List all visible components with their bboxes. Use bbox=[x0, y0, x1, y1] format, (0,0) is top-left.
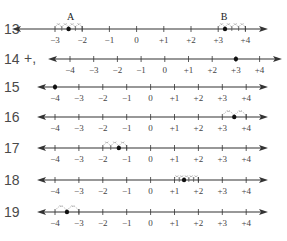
tick-label: +1 bbox=[170, 218, 180, 228]
number-line-worksheet: 13−3−2−10+1+2+3+4AB14+,−4−3−2−10+1+2+3+4… bbox=[0, 0, 287, 241]
point-dot bbox=[66, 27, 70, 31]
number-line-problem-18: 18−4−3−2−10+1+2+3+4 bbox=[4, 172, 268, 196]
tick-label: −2 bbox=[113, 65, 123, 75]
tick-label: −1 bbox=[105, 35, 115, 45]
tick-label: 0 bbox=[148, 154, 153, 164]
point-dot bbox=[53, 85, 57, 89]
tick-label: −3 bbox=[74, 154, 84, 164]
point-label-b: B bbox=[221, 11, 228, 22]
point-dot bbox=[117, 146, 121, 150]
tick-label: 0 bbox=[148, 218, 153, 228]
tick-label: 0 bbox=[148, 186, 153, 196]
number-line-problem-14: 14+,−4−3−2−10+1+2+3+4 bbox=[4, 50, 282, 75]
problem-prefix: +, bbox=[24, 50, 36, 66]
tick-label: +3 bbox=[218, 186, 228, 196]
tick-label: +1 bbox=[184, 65, 194, 75]
tick-label: +2 bbox=[207, 65, 217, 75]
tick-label: −1 bbox=[136, 65, 146, 75]
tick-label: −4 bbox=[50, 123, 60, 133]
tick-label: −3 bbox=[50, 35, 60, 45]
tick-label: −3 bbox=[74, 186, 84, 196]
tick-label: +4 bbox=[241, 93, 251, 103]
tick-label: +4 bbox=[241, 35, 251, 45]
tick-label: +2 bbox=[194, 123, 204, 133]
tick-label: −4 bbox=[65, 65, 75, 75]
tick-label: −1 bbox=[122, 218, 132, 228]
problem-number: 17 bbox=[4, 140, 20, 156]
point-dot bbox=[232, 115, 236, 119]
point-dot bbox=[234, 57, 238, 61]
tick-label: 0 bbox=[148, 123, 153, 133]
tick-label: 0 bbox=[134, 35, 139, 45]
tick-label: −1 bbox=[122, 154, 132, 164]
tick-label: +2 bbox=[194, 93, 204, 103]
tick-label: −1 bbox=[122, 186, 132, 196]
tick-label: +4 bbox=[241, 154, 251, 164]
number-line-problem-15: 15−4−3−2−10+1+2+3+4 bbox=[4, 79, 268, 103]
tick-label: −2 bbox=[77, 35, 87, 45]
tick-label: −1 bbox=[122, 93, 132, 103]
tick-label: −2 bbox=[98, 123, 108, 133]
tick-label: −3 bbox=[74, 218, 84, 228]
point-label-a: A bbox=[67, 11, 75, 22]
tick-label: +1 bbox=[170, 123, 180, 133]
tick-label: +3 bbox=[218, 123, 228, 133]
tick-label: −2 bbox=[98, 218, 108, 228]
tick-label: −2 bbox=[98, 154, 108, 164]
number-line-problem-16: 16−4−3−2−10+1+2+3+4 bbox=[4, 109, 268, 133]
tick-label: −3 bbox=[74, 93, 84, 103]
point-dot bbox=[223, 27, 227, 31]
tick-label: −3 bbox=[74, 123, 84, 133]
tick-label: +4 bbox=[241, 123, 251, 133]
tick-label: −4 bbox=[50, 218, 60, 228]
problem-number: 14 bbox=[4, 51, 20, 67]
problem-number: 15 bbox=[4, 79, 20, 95]
tick-label: +4 bbox=[241, 218, 251, 228]
tick-label: +3 bbox=[218, 93, 228, 103]
problem-number: 18 bbox=[4, 172, 20, 188]
tick-label: −1 bbox=[122, 123, 132, 133]
tick-label: −4 bbox=[50, 186, 60, 196]
number-line-problem-13: 13−3−2−10+1+2+3+4AB bbox=[4, 11, 268, 45]
tick-label: −2 bbox=[98, 93, 108, 103]
tick-label: −4 bbox=[50, 154, 60, 164]
tick-label: +3 bbox=[218, 154, 228, 164]
tick-label: +1 bbox=[170, 186, 180, 196]
number-line-problem-19: 19−4−3−2−10+1+2+3+4 bbox=[4, 204, 268, 228]
tick-label: −2 bbox=[98, 186, 108, 196]
tick-label: +2 bbox=[194, 186, 204, 196]
tick-label: −3 bbox=[89, 65, 99, 75]
problem-number: 16 bbox=[4, 109, 20, 125]
point-dot bbox=[65, 210, 69, 214]
tick-label: +2 bbox=[194, 218, 204, 228]
number-line-problem-17: 17−4−3−2−10+1+2+3+4 bbox=[4, 140, 268, 164]
tick-label: +4 bbox=[241, 186, 251, 196]
tick-label: −4 bbox=[50, 93, 60, 103]
point-dot bbox=[182, 178, 186, 182]
problem-number: 19 bbox=[4, 204, 20, 220]
tick-label: +3 bbox=[218, 218, 228, 228]
tick-label: 0 bbox=[163, 65, 168, 75]
tick-label: +1 bbox=[170, 154, 180, 164]
tick-label: +2 bbox=[194, 154, 204, 164]
tick-label: +2 bbox=[186, 35, 196, 45]
tick-label: +1 bbox=[159, 35, 169, 45]
tick-label: +4 bbox=[255, 65, 265, 75]
tick-label: +3 bbox=[231, 65, 241, 75]
tick-label: 0 bbox=[148, 93, 153, 103]
tick-label: +3 bbox=[213, 35, 223, 45]
tick-label: +1 bbox=[170, 93, 180, 103]
